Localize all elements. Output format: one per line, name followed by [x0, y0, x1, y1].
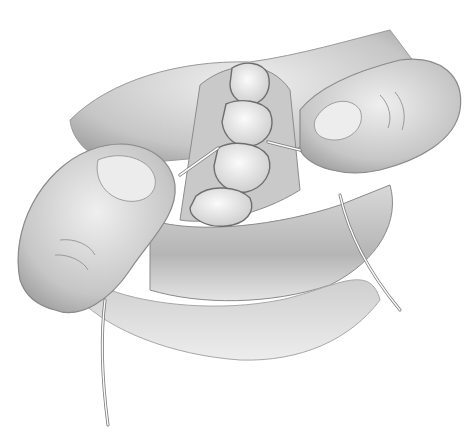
tooth-1 [230, 63, 269, 104]
illustration-canvas [0, 0, 470, 439]
tooth-3 [214, 143, 270, 192]
tooth-4 [190, 188, 252, 226]
flossing-illustration [0, 0, 470, 439]
tooth-2 [222, 101, 272, 147]
